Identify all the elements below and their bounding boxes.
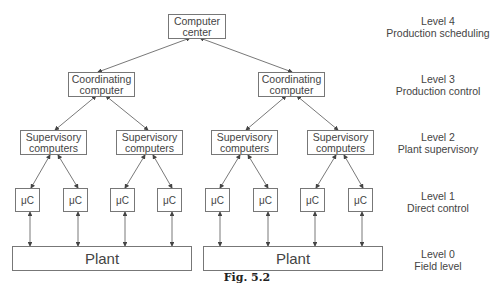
microcontroller-node-8: μC <box>348 188 373 212</box>
coordinating-computer-left-node: Coordinating computer <box>68 72 135 97</box>
microcontroller-node-6: μC <box>253 188 278 212</box>
microcontroller-node-4: μC <box>157 188 182 212</box>
microcontroller-node-2: μC <box>63 188 88 212</box>
level-number: Level 3 <box>383 73 493 85</box>
level-number: Level 2 <box>383 131 493 143</box>
level-number: Level 0 <box>383 248 493 260</box>
level-2-label: Level 2 Plant supervisory <box>383 131 493 155</box>
level-1-label: Level 1 Direct control <box>383 190 493 214</box>
level-number: Level 4 <box>383 15 493 27</box>
supervisory-computers-node-3: Supervisory computers <box>211 130 278 155</box>
level-name: Production control <box>383 85 493 97</box>
microcontroller-node-5: μC <box>205 188 230 212</box>
level-name: Direct control <box>383 202 493 214</box>
level-name: Plant supervisory <box>383 143 493 155</box>
microcontroller-node-1: μC <box>15 188 40 212</box>
level-name: Production scheduling <box>383 27 493 39</box>
figure-caption: Fig. 5.2 <box>0 271 494 284</box>
microcontroller-node-3: μC <box>110 188 135 212</box>
level-3-label: Level 3 Production control <box>383 73 493 97</box>
plant-right-node: Plant <box>203 246 383 271</box>
computer-center-node: Computer center <box>168 14 226 39</box>
plant-left-node: Plant <box>12 246 192 271</box>
level-4-label: Level 4 Production scheduling <box>383 15 493 39</box>
level-0-label: Level 0 Field level <box>383 248 493 272</box>
level-number: Level 1 <box>383 190 493 202</box>
supervisory-computers-node-1: Supervisory computers <box>20 130 87 155</box>
supervisory-computers-node-2: Supervisory computers <box>116 130 183 155</box>
supervisory-computers-node-4: Supervisory computers <box>307 130 374 155</box>
coordinating-computer-right-node: Coordinating computer <box>258 72 325 97</box>
microcontroller-node-7: μC <box>300 188 325 212</box>
